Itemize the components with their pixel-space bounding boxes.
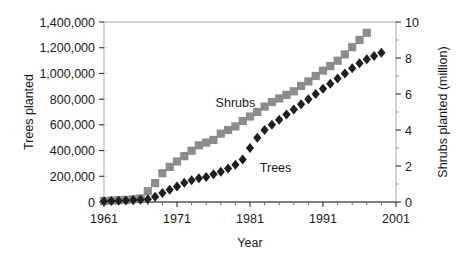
data-point-shrubs bbox=[166, 163, 174, 171]
y-tick-label-left: 1,200,000 bbox=[39, 41, 95, 55]
y-axis-right-tick-labels: 0246810 bbox=[405, 16, 419, 210]
y-tick-label-right: 10 bbox=[405, 16, 419, 30]
data-point-shrubs bbox=[341, 50, 349, 58]
y-tick-label-right: 6 bbox=[405, 88, 412, 102]
data-point-shrubs bbox=[180, 152, 188, 160]
data-point-shrubs bbox=[239, 117, 247, 125]
data-point-shrubs bbox=[173, 157, 181, 165]
y-tick-label-left: 600,000 bbox=[50, 118, 95, 132]
data-point-shrubs bbox=[363, 29, 371, 37]
y-tick-label-left: 200,000 bbox=[50, 170, 95, 184]
y-axis-right-ticks bbox=[396, 22, 401, 202]
y-tick-label-right: 2 bbox=[405, 160, 412, 174]
y-tick-label-left: 0 bbox=[88, 196, 95, 210]
data-point-shrubs bbox=[246, 112, 254, 120]
series-label-trees: Trees bbox=[260, 161, 292, 175]
line-chart-svg: 19611971198119912001 0200,000400,000600,… bbox=[0, 0, 473, 264]
data-point-shrubs bbox=[312, 72, 320, 80]
data-point-shrubs bbox=[334, 57, 342, 65]
y-tick-label-left: 400,000 bbox=[50, 144, 95, 158]
data-point-shrubs bbox=[209, 136, 217, 144]
y-tick-label-left: 800,000 bbox=[50, 93, 95, 107]
data-point-shrubs bbox=[217, 130, 225, 138]
y-tick-label-right: 0 bbox=[405, 196, 412, 210]
x-tick-label: 1981 bbox=[236, 212, 264, 226]
data-point-shrubs bbox=[202, 139, 210, 147]
data-point-shrubs bbox=[297, 82, 305, 90]
y-axis-right-title: Shrubs planted (million) bbox=[436, 46, 450, 177]
y-tick-label-left: 1,400,000 bbox=[39, 16, 95, 30]
data-point-shrubs bbox=[290, 87, 298, 95]
data-point-shrubs bbox=[275, 94, 283, 102]
data-point-shrubs bbox=[151, 179, 159, 187]
data-point-shrubs bbox=[326, 62, 334, 70]
data-point-shrubs bbox=[348, 43, 356, 51]
y-tick-label-right: 4 bbox=[405, 124, 412, 138]
y-tick-label-left: 1,000,000 bbox=[39, 67, 95, 81]
data-point-shrubs bbox=[261, 103, 269, 111]
data-point-shrubs bbox=[355, 36, 363, 44]
data-point-shrubs bbox=[282, 91, 290, 99]
series-label-shrubs: Shrubs bbox=[216, 96, 256, 110]
x-tick-label: 1961 bbox=[90, 212, 118, 226]
data-point-shrubs bbox=[158, 169, 166, 177]
data-point-shrubs bbox=[144, 187, 152, 195]
data-point-shrubs bbox=[188, 147, 196, 155]
data-point-shrubs bbox=[319, 67, 327, 75]
x-tick-label: 1991 bbox=[309, 212, 337, 226]
data-point-shrubs bbox=[268, 98, 276, 106]
x-tick-label: 1971 bbox=[163, 212, 191, 226]
chart-container: 19611971198119912001 0200,000400,000600,… bbox=[0, 0, 473, 264]
y-axis-left-title: Trees planted bbox=[22, 74, 36, 150]
y-tick-label-right: 8 bbox=[405, 52, 412, 66]
data-point-shrubs bbox=[195, 141, 203, 149]
x-axis-tick-labels: 19611971198119912001 bbox=[90, 212, 410, 226]
data-point-shrubs bbox=[224, 126, 232, 134]
data-point-shrubs bbox=[304, 77, 312, 85]
x-tick-label: 2001 bbox=[382, 212, 410, 226]
data-point-shrubs bbox=[231, 122, 239, 130]
x-axis-title: Year bbox=[237, 236, 262, 250]
y-axis-left-tick-labels: 0200,000400,000600,000800,0001,000,0001,… bbox=[39, 16, 95, 210]
